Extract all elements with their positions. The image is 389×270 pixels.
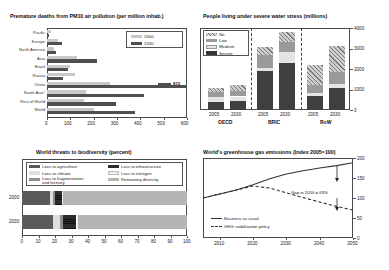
water-bar-row2005-low — [307, 85, 323, 93]
water-ytick-2000 — [350, 69, 353, 70]
pm10-cat-brazil: Brazil — [0, 64, 45, 69]
panel-biodiversity: World threats to biodiversity (percent) … — [0, 135, 195, 270]
water-xlabel-oecd-2030: 2030 — [231, 112, 241, 117]
biodiv-legend-label-nitrogen: Loss to nitrogen — [121, 171, 152, 176]
water-bar-bric2005-low — [257, 55, 273, 67]
water-ylabel-3000: 3000 — [354, 46, 364, 51]
water-ytick-0 — [350, 110, 353, 111]
biodiv-xlabel-50: 50 — [102, 239, 107, 244]
biodiv-row-label-2030: 2030 — [9, 219, 19, 224]
water-title: People living under severe water stress … — [203, 13, 327, 19]
biodiv-xlabel-90: 90 — [168, 239, 173, 244]
water-ytick-1000 — [350, 90, 353, 91]
pm10-xlabel-100: 100 — [64, 121, 72, 126]
water-xlabel-row-2030: 2030 — [330, 112, 340, 117]
water-group-divider-2 — [301, 28, 302, 110]
biodiv-legend-label-fragmentation: Loss to fragmentation and forestry — [42, 177, 86, 184]
ghg-legend-swatch-policy — [211, 226, 222, 227]
pm10-bar-2030-asia — [47, 59, 97, 62]
biodiv-tick-20 — [55, 236, 56, 238]
biodiv-legend-item-infrastructure: Loss to infrastructure — [108, 164, 161, 169]
pm10-bar-2030-north-america — [47, 51, 56, 54]
water-bar-row2005-severe — [307, 96, 323, 110]
water-legend-label-no: No — [219, 32, 225, 37]
water-xlabel-oecd-2005: 2005 — [209, 112, 219, 117]
water-bar-bric2030-low — [279, 42, 295, 52]
biodiv-legend-item-remaining: Remaining diversity — [108, 177, 159, 182]
water-legend-item-low: Low — [206, 38, 227, 43]
ghg-xlabel-2040: 2040 — [314, 241, 324, 246]
biodiv-bar-2030-remaining — [78, 215, 187, 229]
pm10-value-872: 872 — [173, 81, 180, 86]
biodiv-legend-label-infrastructure: Loss to infrastructure — [121, 164, 161, 169]
biodiv-row-label-2000: 2000 — [9, 195, 19, 200]
biodiv-xlabel-100: 100 — [183, 239, 191, 244]
pm10-bar-2030-pacific — [47, 34, 49, 37]
biodiv-tick-100 — [187, 236, 188, 238]
biodiv-legend-label-remaining: Remaining diversity — [121, 177, 159, 182]
pm10-cat-rest-of-world: Rest of World — [0, 99, 45, 104]
water-legend-swatch-severe — [206, 51, 217, 54]
ghg-xtick-2010 — [220, 238, 221, 240]
pm10-bar-2030-china — [47, 85, 187, 88]
pm10-legend-swatch-2030 — [131, 42, 142, 45]
biodiv-tick-70 — [138, 236, 139, 238]
biodiv-bar-2030-climate — [53, 215, 60, 229]
biodiv-tick-10 — [39, 236, 40, 238]
water-legend-label-severe: Severe — [219, 51, 233, 56]
biodiv-legend-label-agriculture: Loss to agriculture — [42, 164, 77, 169]
pm10-cat-pacific: Pacific — [0, 30, 45, 35]
biodiv-tick-80 — [154, 236, 155, 238]
pm10-tick-100 — [70, 118, 71, 120]
water-bar-bric2030-medium — [279, 52, 295, 64]
figure-sheet: Premature deaths from PM10 air pollution… — [0, 0, 389, 270]
biodiv-tick-50 — [105, 236, 106, 238]
panel-pm10: Premature deaths from PM10 air pollution… — [0, 0, 195, 135]
water-ylabel-4000: 4000 — [354, 26, 364, 31]
biodiv-legend-swatch-infrastructure — [108, 165, 119, 168]
water-legend-label-low: Low — [219, 38, 227, 43]
ghg-ytick-200 — [353, 158, 356, 159]
ghg-ytick-50 — [353, 218, 356, 219]
water-bar-row2005-medium — [307, 93, 323, 96]
pm10-cat-world: World — [0, 107, 45, 112]
biodiv-legend-swatch-agriculture — [29, 165, 40, 168]
pm10-cat-south-asia: South Asia* — [0, 90, 45, 95]
ghg-ylabel-100: 100 — [357, 196, 365, 201]
biodiv-tick-60 — [121, 236, 122, 238]
biodiv-bar-2000-agriculture — [22, 191, 50, 205]
pm10-xlabel-200: 200 — [87, 121, 95, 126]
pm10-tick-200 — [94, 118, 95, 120]
pm10-tick-300 — [117, 118, 118, 120]
pm10-cat-asia: Asia — [0, 56, 45, 61]
biodiv-xlabel-40: 40 — [85, 239, 90, 244]
water-xlabel-bric-2030: 2030 — [280, 112, 290, 117]
pm10-legend-label-2030: 2030 — [144, 41, 154, 46]
ghg-legend-swatch-bau — [211, 218, 222, 219]
water-bar-oecd2030-low — [230, 91, 246, 97]
water-xlabel-row-2005: 2005 — [308, 112, 318, 117]
water-bar-oecd2005-medium — [208, 97, 224, 102]
pm10-bar-2030-rest-of-world — [47, 102, 116, 105]
biodiv-bar-2000-infrastructure — [55, 191, 62, 205]
water-xlabel-bric-2005: 2005 — [258, 112, 268, 117]
water-bar-oecd2005-low — [208, 92, 224, 97]
water-ylabel-1000: 1000 — [354, 87, 364, 92]
water-legend-swatch-low — [206, 39, 217, 42]
biodiv-legend-swatch-remaining — [108, 178, 119, 181]
ghg-legend-item-bau: Business as usual — [211, 216, 259, 221]
biodiv-legend-label-climate: Loss to climate — [42, 171, 71, 176]
pm10-bar-2030-russia — [47, 77, 63, 80]
water-bar-row2030-medium — [329, 84, 345, 88]
pm10-xlabel-600: 600 — [181, 121, 189, 126]
pm10-cat-north-america: North America — [0, 47, 45, 52]
ghg-legend-label-bau: Business as usual — [224, 216, 259, 221]
biodiv-tick-0 — [22, 236, 23, 238]
biodiv-title: World threats to biodiversity (percent) — [36, 149, 132, 155]
ghg-xtick-2020 — [253, 238, 254, 240]
water-ytick-3000 — [350, 49, 353, 50]
biodiv-bar-2000-remaining — [63, 191, 187, 205]
pm10-bar-2030-europe — [47, 42, 62, 45]
pm10-bar-2030-south-asia — [47, 94, 144, 97]
water-bar-oecd2005-severe — [208, 102, 224, 110]
